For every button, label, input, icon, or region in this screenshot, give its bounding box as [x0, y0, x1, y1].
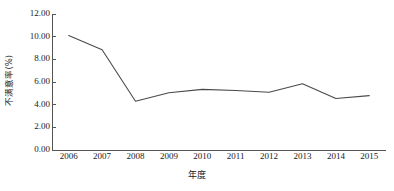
line-chart: 不满意率(%) 12.0010.008.006.004.002.000.00 2…: [0, 0, 394, 191]
data-series-line: [69, 36, 370, 102]
plot-area: [0, 0, 394, 191]
y-axis-tick-marks: [52, 14, 56, 150]
x-axis-title: 年度: [0, 168, 394, 181]
